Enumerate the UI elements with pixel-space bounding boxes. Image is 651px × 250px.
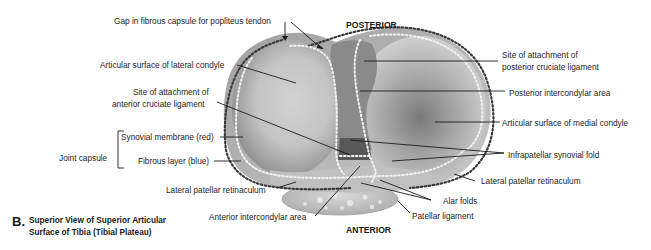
label-pcl-attachment-line1: Site of attachment of [502,49,578,60]
caption-title: Superior View of Superior Articular Surf… [29,214,166,237]
label-joint-capsule: Joint capsule [59,152,107,163]
label-infrapatellar-synovial-fold: Infrapatellar synovial fold [508,149,599,160]
label-lateral-patellar-retinaculum-left: Lateral patellar retinaculum [166,184,266,195]
label-patellar-ligament: Patellar ligament [412,210,473,221]
caption-line-2: Surface of Tibia (Tibial Plateau) [29,226,152,237]
tibial-plateau-body [224,28,491,193]
label-acl-attachment-line2: anterior cruciate ligament [112,98,205,109]
tibial-plateau-figure: POSTERIOR ANTERIOR Gap in fibrous capsul… [0,0,651,250]
label-synovial-membrane: Synovial membrane (red) [121,131,214,142]
label-gap-fibrous-capsule: Gap in fibrous capsule for popliteus ten… [114,15,271,26]
orientation-anterior-label: ANTERIOR [346,224,391,235]
label-articular-surface-medial-condyle: Articular surface of medial condyle [502,117,628,128]
label-pcl-attachment-line2: posterior cruciate ligament [502,61,599,72]
label-fibrous-layer: Fibrous layer (blue) [138,155,209,166]
label-posterior-intercondylar-area: Posterior intercondylar area [509,87,610,98]
label-articular-surface-lateral-condyle: Articular surface of lateral condyle [100,59,224,70]
caption-line-1: Superior View of Superior Articular [29,214,166,225]
label-acl-attachment-line1: Site of attachment of [133,86,209,97]
label-alar-folds: Alar folds [443,195,477,206]
orientation-posterior-label: POSTERIOR [346,19,397,30]
label-lateral-patellar-retinaculum-right: Lateral patellar retinaculum [481,175,581,186]
panel-letter: B. [12,214,25,229]
figure-caption: B. Superior View of Superior Articular S… [12,212,189,237]
label-anterior-intercondylar-area: Anterior intercondylar area [209,211,306,222]
